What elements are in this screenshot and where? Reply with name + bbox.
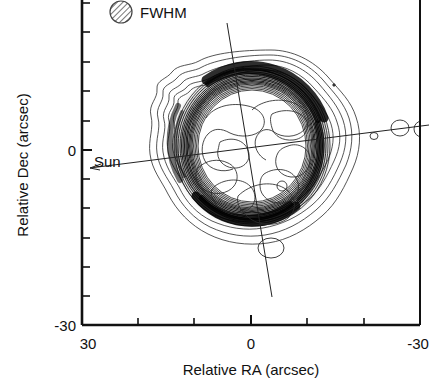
x-axis-title: Relative RA (arcsec)	[183, 361, 320, 378]
fwhm-label: FWHM	[140, 4, 187, 21]
y-tick-label-0: 0	[68, 142, 76, 159]
fwhm-beam-icon	[110, 1, 132, 23]
x-tick-label-minus30: -30	[407, 335, 429, 352]
fwhm-legend: FWHM	[110, 1, 187, 23]
y-axis-title: Relative Dec (arcsec)	[14, 93, 31, 236]
contour-plot-svg: Sun FWHM 0 -30 30 0 -30 Relative	[0, 0, 429, 388]
contour-figure: Sun FWHM 0 -30 30 0 -30 Relative	[0, 0, 429, 388]
x-tick-label-0: 0	[247, 335, 255, 352]
x-tick-label-30: 30	[80, 335, 97, 352]
y-tick-label-minus30: -30	[54, 317, 76, 334]
sun-label: Sun	[94, 153, 121, 170]
